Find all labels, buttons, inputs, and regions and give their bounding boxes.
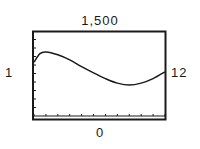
axes — [34, 40, 165, 117]
graph-window — [0, 0, 200, 149]
plot-curve — [34, 52, 165, 85]
